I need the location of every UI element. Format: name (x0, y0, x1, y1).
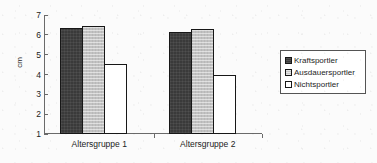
legend-swatch-icon (285, 81, 292, 88)
x-axis-label: Altersgruppe 1 (45, 139, 154, 149)
legend-item-kraftsportler: Kraftsportler (285, 54, 362, 66)
legend-item-label: Nichtsportler (294, 80, 339, 89)
legend-item-nichtsportler: Nichtsportler (285, 78, 362, 90)
legend-item-ausdauersportler: Ausdauersportler (285, 66, 362, 78)
y-axis-tick-label: 6 (25, 30, 41, 40)
y-axis-tick-label: 1 (25, 129, 41, 139)
bar-altersgruppe-1-ausdauersportler (82, 26, 105, 134)
chart-legend: KraftsportlerAusdauersportlerNichtsportl… (280, 50, 366, 94)
bar-altersgruppe-1-nichtsportler (104, 64, 127, 134)
x-axis-end-tick (262, 134, 263, 138)
plot-area (45, 15, 262, 134)
bar-altersgruppe-1-kraftsportler (60, 28, 83, 134)
bar-altersgruppe-2-nichtsportler (213, 75, 236, 135)
x-axis-label: Altersgruppe 2 (154, 139, 263, 149)
y-axis-tick-label: 2 (25, 109, 41, 119)
x-axis-group-divider (154, 134, 155, 138)
legend-item-label: Kraftsportler (294, 56, 338, 65)
y-axis-tick-label: 3 (25, 89, 41, 99)
y-axis-tick-label: 5 (25, 50, 41, 60)
y-axis-tick-label: 4 (25, 70, 41, 80)
y-axis-tick-label: 7 (25, 10, 41, 20)
legend-item-label: Ausdauersportler (294, 68, 355, 77)
legend-swatch-icon (285, 57, 292, 64)
bar-chart-figure: cm 7654321 Altersgruppe 1Altersgruppe 2 … (0, 0, 377, 163)
bar-altersgruppe-2-ausdauersportler (191, 29, 214, 134)
bar-altersgruppe-2-kraftsportler (169, 32, 192, 134)
legend-swatch-icon (285, 69, 292, 76)
